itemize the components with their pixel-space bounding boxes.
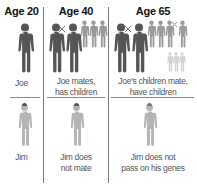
header-age-40: Age 40	[44, 5, 108, 17]
label-joe-mates: Joe mates, has children	[44, 76, 108, 98]
label-joe: Joe	[0, 78, 43, 89]
jim-figure-icon	[141, 103, 158, 147]
header-age-65: Age 65	[109, 5, 197, 17]
child-figure-icon	[97, 20, 108, 48]
label-jim: Jim	[0, 152, 43, 163]
label-joes-children-mate: Joe's children mate, have children	[109, 76, 197, 98]
label-jim-no-genes: Jim does not pass on his genes	[109, 152, 197, 174]
jim-figure-icon	[16, 103, 33, 147]
child-mate-figure-icon	[177, 20, 188, 48]
row-divider	[10, 97, 40, 98]
joe-figure-icon	[15, 23, 35, 73]
label-line: Jim does	[44, 152, 108, 163]
label-line: Joe's children mate,	[109, 76, 197, 87]
row-divider	[111, 97, 194, 98]
header-age-20: Age 20	[0, 5, 43, 17]
row-divider	[47, 97, 105, 98]
label-jim-does-not-mate: Jim does not mate	[44, 152, 108, 174]
jim-hair	[74, 103, 79, 106]
jim-hair	[22, 103, 27, 106]
grandchild-figure-icon	[178, 52, 186, 72]
label-line: Jim does not	[109, 152, 197, 163]
jim-figure-icon	[68, 103, 85, 147]
label-line: pass on his genes	[109, 163, 197, 174]
label-line: Joe mates,	[44, 76, 108, 87]
jim-hair	[147, 103, 152, 106]
label-line: not mate	[44, 163, 108, 174]
